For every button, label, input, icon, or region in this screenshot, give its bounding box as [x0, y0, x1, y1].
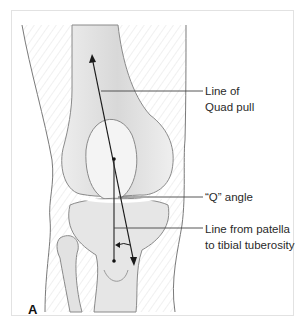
- panel-letter: A: [28, 302, 37, 317]
- patella-center-dot: [112, 157, 116, 161]
- label-patella-line: Line from patella to tibial tuberosity: [205, 221, 295, 253]
- label-patella-line1: Line from patella: [205, 221, 295, 237]
- tuberosity-dot: [112, 259, 116, 263]
- label-quad-pull-line1: Line of: [205, 83, 254, 99]
- label-q-angle: “Q” angle: [205, 189, 253, 205]
- label-patella-line2: to tibial tuberosity: [205, 237, 295, 253]
- label-quad-pull-line2: Quad pull: [205, 99, 254, 115]
- patella: [86, 119, 137, 200]
- label-quad-pull: Line of Quad pull: [205, 83, 254, 115]
- knee-illustration: [0, 0, 306, 329]
